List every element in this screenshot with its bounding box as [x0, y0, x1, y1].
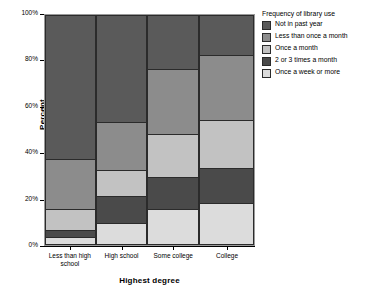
legend-swatch-icon	[262, 57, 271, 66]
bar-column[interactable]	[147, 15, 198, 245]
bar-segment[interactable]	[45, 231, 96, 238]
legend-items: Not in past yearLess than once a monthOn…	[262, 20, 364, 78]
y-axis-tick-label: 100%	[21, 9, 38, 16]
bar-segment[interactable]	[45, 160, 96, 211]
y-axis-tick-label: 40%	[25, 148, 38, 155]
bar-segment[interactable]	[199, 204, 254, 245]
bar-segment[interactable]	[96, 123, 147, 171]
bar-segment[interactable]	[199, 169, 254, 204]
x-axis-tick-label: College	[199, 252, 255, 260]
bar-segment[interactable]	[96, 15, 147, 123]
stacked-bar-chart: Percent 100%80%60%40%20%0% Highest degre…	[0, 0, 365, 300]
x-axis-tick-mark	[173, 246, 174, 250]
bar-segment[interactable]	[147, 70, 198, 134]
bar-segment[interactable]	[96, 197, 147, 225]
x-axis-tick-label: High school	[94, 252, 150, 260]
bar-segment[interactable]	[199, 56, 254, 120]
bar-segment[interactable]	[199, 15, 254, 56]
x-axis-line	[44, 246, 255, 247]
legend-item-label: Not in past year	[275, 20, 323, 28]
legend-item[interactable]: Not in past year	[262, 20, 364, 30]
legend-swatch-icon	[262, 69, 271, 78]
bar-segment[interactable]	[45, 15, 96, 160]
bar-segment[interactable]	[199, 121, 254, 169]
x-axis-tick-mark	[70, 246, 71, 250]
bar-segment[interactable]	[147, 178, 198, 210]
y-axis-tick-label: 20%	[25, 195, 38, 202]
x-axis-tick-label: Some college	[145, 252, 201, 260]
bar-segment[interactable]	[45, 238, 96, 245]
x-axis-tick-mark	[227, 246, 228, 250]
legend-item[interactable]: Less than once a month	[262, 32, 364, 42]
legend-swatch-icon	[262, 33, 271, 42]
legend-title: Frequency of library use	[262, 10, 364, 17]
bar-segment[interactable]	[45, 210, 96, 231]
x-axis-tick-mark	[122, 246, 123, 250]
legend-swatch-icon	[262, 45, 271, 54]
legend-swatch-icon	[262, 21, 271, 30]
legend-item[interactable]: 2 or 3 times a month	[262, 56, 364, 66]
bar-segment[interactable]	[147, 135, 198, 179]
bar-column[interactable]	[199, 15, 254, 245]
y-axis-tick-label: 60%	[25, 102, 38, 109]
legend-item[interactable]: Once a month	[262, 44, 364, 54]
x-axis-tick-label: Less than high school	[42, 252, 98, 268]
legend-item-label: Once a month	[275, 44, 318, 52]
legend-item-label: 2 or 3 times a month	[275, 56, 337, 64]
bar-segment[interactable]	[147, 15, 198, 70]
y-axis: 100%80%60%40%20%0%	[0, 0, 44, 300]
y-axis-tick-label: 80%	[25, 55, 38, 62]
legend-item-label: Less than once a month	[275, 32, 348, 40]
bars-container	[45, 15, 254, 245]
legend-item[interactable]: Once a week or more	[262, 68, 364, 78]
bar-column[interactable]	[96, 15, 147, 245]
legend-item-label: Once a week or more	[275, 68, 340, 76]
y-axis-tick-label: 0%	[29, 241, 38, 248]
bar-column[interactable]	[45, 15, 96, 245]
legend: Frequency of library use Not in past yea…	[262, 10, 364, 80]
plot-area	[44, 14, 255, 246]
bar-segment[interactable]	[147, 210, 198, 245]
bar-segment[interactable]	[96, 224, 147, 245]
bar-segment[interactable]	[96, 171, 147, 196]
x-axis-title: Highest degree	[44, 276, 255, 285]
